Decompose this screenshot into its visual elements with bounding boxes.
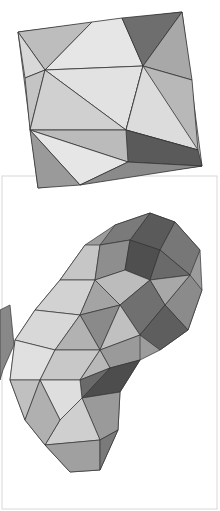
top-drawing xyxy=(18,12,202,188)
artwork-canvas xyxy=(0,0,220,511)
